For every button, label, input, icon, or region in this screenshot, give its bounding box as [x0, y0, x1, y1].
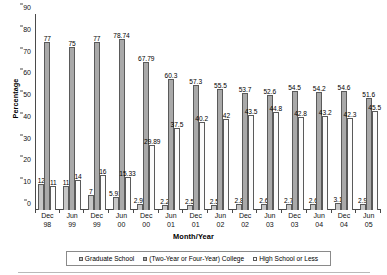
bar-group: 77716: [84, 14, 109, 210]
bar-value-label: 40.2: [195, 115, 208, 123]
bar[interactable]: 43.5: [248, 115, 254, 210]
bar-group: 117514: [60, 14, 85, 210]
x-tick-label-month: Dec: [239, 212, 251, 219]
x-tick-label: Jun00: [109, 212, 134, 229]
bar[interactable]: 16: [100, 175, 106, 210]
bar-value-label: 42.8: [294, 110, 307, 118]
x-tick-label: Dec99: [84, 212, 109, 229]
x-tick-label-year: 99: [60, 221, 85, 230]
x-tick-label: Dec98: [35, 212, 60, 229]
y-tick-label: 0: [27, 200, 35, 207]
x-tick-label: Dec03: [282, 212, 307, 229]
x-tick-label-year: 03: [257, 221, 282, 230]
legend-item[interactable]: Graduate School: [79, 255, 135, 262]
bar-group: 2.9267.7929.89: [134, 14, 159, 210]
x-tick-label-month: Jun: [215, 212, 226, 219]
bar[interactable]: 40.2: [199, 122, 205, 210]
y-tick-label: 10: [23, 178, 35, 185]
bar-value-label: 42: [223, 112, 230, 120]
legend-label: (Two-Year or Four-Year) College: [149, 255, 244, 262]
y-tick-mark: [20, 69, 23, 70]
legend-swatch-icon: [253, 257, 257, 261]
x-tick-label: Jun05: [356, 212, 381, 229]
bar-value-label: 75: [68, 40, 75, 48]
x-tick-label: Jun99: [60, 212, 85, 229]
x-tick-label-month: Jun: [363, 212, 374, 219]
x-tick-label: Jun01: [159, 212, 184, 229]
x-tick-label: Jun03: [257, 212, 282, 229]
plot-area: 0102030405060708090 127711117514777165.9…: [35, 14, 381, 210]
page-divider: [18, 272, 370, 273]
x-tick-label-month: Jun: [165, 212, 176, 219]
x-tick-label-year: 02: [208, 221, 233, 230]
bar-group: 3.154.642.3: [332, 14, 357, 210]
bar[interactable]: 45.5: [372, 111, 378, 210]
bar-value-label: 43.2: [319, 109, 332, 117]
x-tick-label-year: 00: [109, 221, 134, 230]
x-tick-label-year: 01: [183, 221, 208, 230]
chart-legend: Graduate School(Two-Year or Four-Year) C…: [66, 251, 331, 266]
bar[interactable]: 14: [75, 180, 81, 210]
bar-group: 2.652.644.8: [257, 14, 282, 210]
x-tick-label-month: Dec: [288, 212, 300, 219]
bar[interactable]: 29.89: [149, 145, 155, 210]
bars-layer: 127711117514777165.9378.7415.332.9267.79…: [35, 14, 381, 210]
x-tick-label-year: 01: [159, 221, 184, 230]
x-tick-label-month: Dec: [41, 212, 53, 219]
x-tick-label-month: Jun: [116, 212, 127, 219]
legend-item[interactable]: High School or Less: [253, 255, 318, 262]
legend-item[interactable]: (Two-Year or Four-Year) College: [143, 255, 244, 262]
bar-value-label: 52.6: [263, 88, 276, 96]
bar-value-label: 53.7: [239, 86, 252, 94]
bar-value-label: 57.3: [189, 78, 202, 86]
bar-value-label: 7: [89, 188, 93, 196]
y-tick-mark: [20, 25, 23, 26]
bar-group: 2.555.542: [208, 14, 233, 210]
legend-label: High School or Less: [259, 255, 318, 262]
y-tick-label: 60: [23, 69, 35, 76]
bar-value-label: 77: [44, 35, 51, 43]
y-tick-label: 50: [23, 91, 35, 98]
bar-group: 2.260.337.5: [159, 14, 184, 210]
bar[interactable]: 42.8: [298, 117, 304, 210]
bar[interactable]: 11: [50, 186, 56, 210]
bar-group: 2.754.542.8: [282, 14, 307, 210]
x-tick-label-year: 03: [282, 221, 307, 230]
y-tick-label: 70: [23, 47, 35, 54]
bar-value-label: 45.5: [368, 104, 381, 112]
bar-chart: Percentage 0102030405060708090 127711117…: [0, 0, 387, 275]
bar[interactable]: 42: [223, 119, 229, 210]
bar[interactable]: 43.2: [322, 116, 328, 210]
bar-value-label: 77: [93, 35, 100, 43]
x-axis-title: Month/Year: [0, 232, 387, 241]
bar[interactable]: 44.8: [273, 112, 279, 210]
x-tick-label-month: Dec: [189, 212, 201, 219]
x-tick-label-month: Dec: [140, 212, 152, 219]
y-tick-label: 80: [23, 25, 35, 32]
bar-value-label: 11: [50, 179, 57, 187]
x-tick-label: Jun02: [208, 212, 233, 229]
bar[interactable]: 15.33: [125, 177, 131, 210]
x-tick-label-year: 02: [233, 221, 258, 230]
x-tick-label-year: 04: [332, 221, 357, 230]
x-tick-label-month: Dec: [338, 212, 350, 219]
bar-group: 127711: [35, 14, 60, 210]
y-tick-mark: [20, 156, 23, 157]
bar-value-label: 54.6: [338, 84, 351, 92]
x-tick-label: Dec02: [233, 212, 258, 229]
bar-value-label: 54.2: [313, 85, 326, 93]
y-tick-mark: [20, 112, 23, 113]
bar-value-label: 37.5: [171, 121, 184, 129]
x-axis-ticks: Dec98Jun99Dec99Jun00Dec00Jun01Dec01Jun02…: [35, 212, 381, 229]
y-tick-mark: [20, 134, 23, 135]
x-tick-label: Dec01: [183, 212, 208, 229]
legend-swatch-icon: [143, 257, 147, 261]
x-tick-label-year: 98: [35, 221, 60, 230]
bar[interactable]: 42.3: [347, 118, 353, 210]
bar[interactable]: 37.5: [174, 128, 180, 210]
x-tick-label-year: 04: [307, 221, 332, 230]
x-tick-label-month: Jun: [264, 212, 275, 219]
y-tick-label: 30: [23, 134, 35, 141]
y-tick-label: 40: [23, 112, 35, 119]
bar-value-label: 67.79: [138, 55, 155, 63]
